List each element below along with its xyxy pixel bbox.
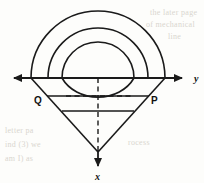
x-axis-label: x: [94, 171, 100, 182]
inner-semicircle-arc: [62, 42, 134, 78]
y-axis-label: y: [193, 73, 199, 84]
figure-canvas: the later page of mechanical line letter…: [0, 0, 204, 183]
outer-semicircle-arc: [31, 11, 165, 78]
point-label-q: Q: [34, 95, 42, 106]
left-v-edge-line: [31, 78, 98, 152]
geometry-diagram: y x Q P: [0, 0, 204, 183]
point-label-p: P: [151, 95, 158, 106]
right-v-edge-line: [98, 78, 165, 152]
